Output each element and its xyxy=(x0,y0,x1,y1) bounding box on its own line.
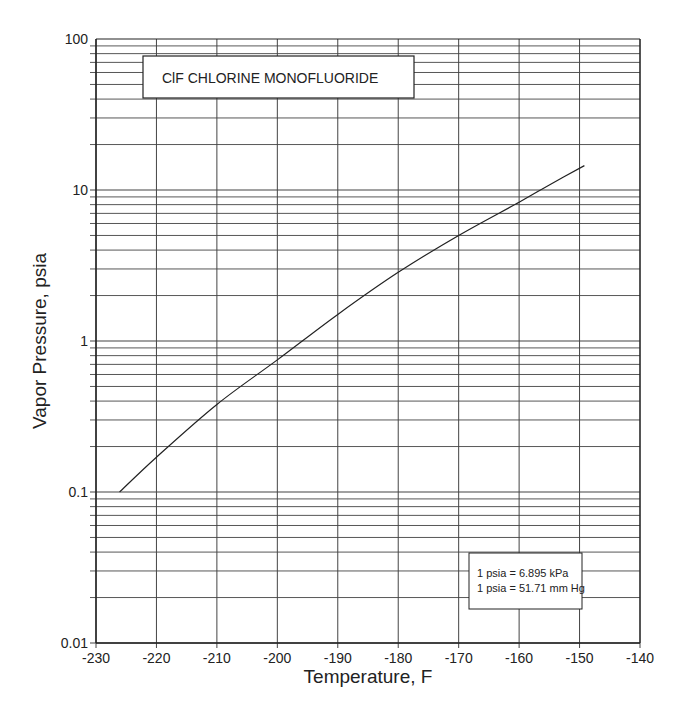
conversion-box: 1 psia = 6.895 kPa 1 psia = 51.71 mm Hg xyxy=(469,553,585,609)
x-tick-label: -210 xyxy=(203,650,231,666)
x-tick-label: -200 xyxy=(263,650,291,666)
conversion-kpa: 1 psia = 6.895 kPa xyxy=(477,567,569,579)
vapor-pressure-curve xyxy=(120,166,585,492)
title-box: ClF CHLORINE MONOFLUORIDE xyxy=(143,56,414,98)
x-tick-label: -180 xyxy=(384,650,412,666)
x-tick-label: -160 xyxy=(505,650,533,666)
x-tick-label: -230 xyxy=(82,650,110,666)
chart-title: ClF CHLORINE MONOFLUORIDE xyxy=(162,70,378,86)
y-tick-label: 0.01 xyxy=(61,635,88,651)
conversion-mmhg: 1 psia = 51.71 mm Hg xyxy=(477,582,585,594)
x-tick-label: -140 xyxy=(626,650,654,666)
y-tick-label: 1 xyxy=(80,333,88,349)
x-tick-label: -170 xyxy=(445,650,473,666)
vapor-pressure-chart: -230-220-210-200-190-180-170-160-150-140… xyxy=(0,0,684,723)
y-axis-title: Vapor Pressure, psia xyxy=(29,253,50,429)
y-tick-label: 10 xyxy=(72,182,88,198)
y-tick-label: 100 xyxy=(65,31,89,47)
x-tick-label: -220 xyxy=(142,650,170,666)
x-tick-label: -190 xyxy=(324,650,352,666)
y-tick-label: 0.1 xyxy=(69,484,89,500)
x-axis-title: Temperature, F xyxy=(304,666,433,687)
x-tick-label: -150 xyxy=(566,650,594,666)
